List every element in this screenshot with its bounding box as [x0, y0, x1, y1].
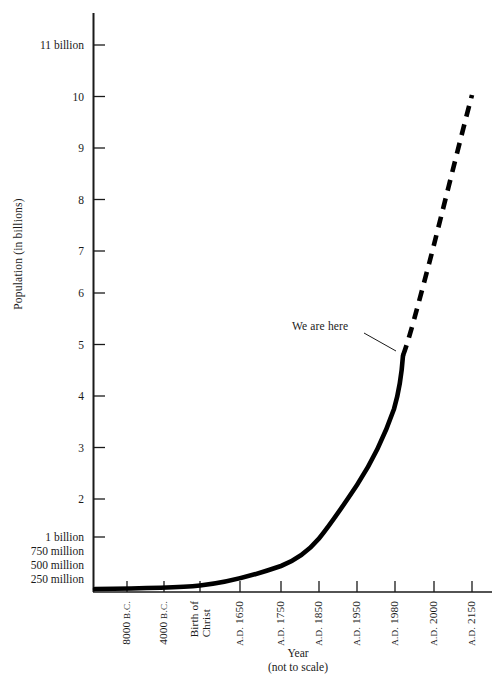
- we-are-here-annotation: We are here: [292, 320, 348, 333]
- x-axis-title: Year (not to scale): [233, 646, 363, 674]
- population-growth-chart: 11 billion 10 9 8 7 6 5 4 3 2 1 billion …: [0, 0, 501, 683]
- y-axis-title: Population (in billions): [12, 184, 24, 324]
- x-axis-title-line2: (not to scale): [233, 660, 363, 674]
- y-axis-ticks: [94, 45, 105, 537]
- population-curve-solid: [95, 356, 403, 590]
- x-axis-title-line1: Year: [233, 646, 363, 660]
- population-curve-dashed: [403, 95, 472, 356]
- annotation-leader-line: [364, 333, 396, 351]
